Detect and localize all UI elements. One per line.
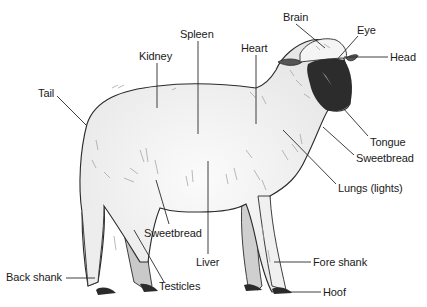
leader-line-sweetbread_front xyxy=(323,127,354,155)
leader-line-tail xyxy=(57,96,87,126)
label-brain: Brain xyxy=(283,11,308,23)
label-kidney: Kidney xyxy=(139,50,172,62)
leader-line-brain xyxy=(296,24,325,48)
label-spleen: Spleen xyxy=(180,28,214,40)
leader-line-sweetbread_rear xyxy=(156,180,169,224)
label-sweetbread-front: Sweetbread xyxy=(356,152,414,164)
label-heart: Heart xyxy=(241,42,267,54)
leader-line-eye xyxy=(326,36,358,72)
label-sweetbread-rear: Sweetbread xyxy=(144,227,202,239)
sheep-anatomy-diagram: Brain Eye Head Spleen Heart Kidney Tail … xyxy=(0,0,427,307)
label-lungs: Lungs (lights) xyxy=(338,182,403,194)
label-eye: Eye xyxy=(357,24,376,36)
label-head: Head xyxy=(390,51,416,63)
label-hoof: Hoof xyxy=(323,286,346,298)
label-tail: Tail xyxy=(38,87,54,99)
leader-line-tongue xyxy=(343,108,368,136)
label-fore-shank: Fore shank xyxy=(313,256,367,268)
label-testicles: Testicles xyxy=(159,280,200,292)
label-liver: Liver xyxy=(196,256,219,268)
label-tongue: Tongue xyxy=(370,136,406,148)
label-back-shank: Back shank xyxy=(6,271,62,283)
leader-line-lungs xyxy=(283,130,336,184)
